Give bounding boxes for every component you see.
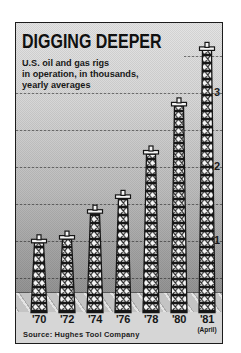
subtitle-line-2: in operation, in thousands, xyxy=(22,68,190,79)
chart-title: DIGGING DEEPER xyxy=(22,30,162,53)
oil-derrick-bar xyxy=(87,205,103,312)
title-block: DIGGING DEEPER U.S. oil and gas rigs in … xyxy=(22,30,196,90)
page: { "header": { "title": "DIGGING DEEPER",… xyxy=(0,0,241,353)
oil-derrick-bar xyxy=(143,146,159,313)
subtitle-line-3: yearly averages xyxy=(22,79,190,90)
oil-derrick-bar xyxy=(115,190,131,312)
oil-derrick-bar xyxy=(59,231,75,312)
chart-subtitle: U.S. oil and gas rigs in operation, in t… xyxy=(22,57,190,90)
oil-derrick-bar xyxy=(199,42,215,312)
oil-derrick-bar xyxy=(31,235,47,313)
oil-derrick-bar xyxy=(171,98,187,313)
y-tick-label-3: 3 xyxy=(214,86,223,98)
subtitle-line-1: U.S. oil and gas rigs xyxy=(22,57,190,68)
y-tick-label-1: 1 xyxy=(214,234,223,246)
chart-panel: '70'72'74'76'78'80'81(April) Source: Hug… xyxy=(15,22,223,344)
y-tick-label-2: 2 xyxy=(214,160,223,172)
